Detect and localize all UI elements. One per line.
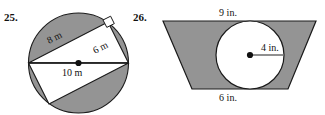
exercise-26-figure: 26. 9 in. 4 in. 6 in. bbox=[133, 7, 316, 103]
center-dot-icon bbox=[75, 60, 81, 66]
figures-canvas: 25. 8 m 6 m 10 m 26. 9 in. 4 in. 6 in. bbox=[0, 0, 325, 115]
label-radius-4in: 4 in. bbox=[261, 42, 279, 53]
exercise-25-number: 25. bbox=[4, 11, 18, 23]
exercise-figures-page: 25. 8 m 6 m 10 m 26. 9 in. 4 in. 6 in. bbox=[0, 0, 325, 115]
center-dot-icon bbox=[247, 52, 253, 58]
label-diameter-10m: 10 m bbox=[62, 67, 83, 78]
label-bottom-base-6in: 6 in. bbox=[219, 92, 237, 103]
exercise-26-number: 26. bbox=[133, 11, 147, 23]
label-top-base-9in: 9 in. bbox=[219, 7, 237, 18]
exercise-25-figure: 25. 8 m 6 m 10 m bbox=[4, 11, 129, 113]
